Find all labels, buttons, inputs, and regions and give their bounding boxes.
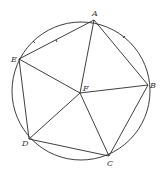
pentagon-diagram: A B C D E F [0, 0, 162, 173]
circumcircle [12, 22, 150, 160]
label-f: F [82, 84, 89, 93]
label-d: D [21, 139, 29, 148]
label-b: B [149, 81, 156, 90]
label-c: C [107, 159, 113, 168]
label-a: A [91, 9, 98, 18]
tick-marks [33, 36, 125, 43]
label-e: E [10, 55, 17, 64]
